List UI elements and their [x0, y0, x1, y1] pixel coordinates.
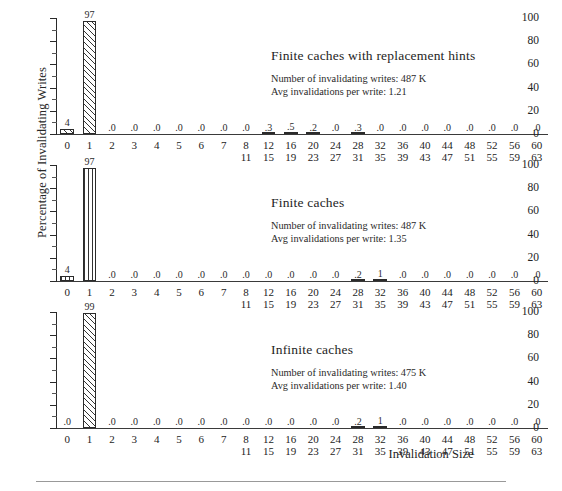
- x-tick-label-top: 6: [199, 286, 205, 298]
- y-tick-major: [50, 382, 57, 383]
- x-tick-label: 1215: [257, 139, 279, 163]
- bar-value-label: .0: [168, 123, 190, 133]
- x-tick-label-row: 0123456781112151619202324272831323536394…: [56, 286, 548, 312]
- x-tick-label-bottom: 27: [324, 151, 346, 163]
- panel-stats: Number of invalidating writes: 487 K Avg…: [271, 220, 426, 245]
- bar-value-label: .0: [459, 270, 481, 280]
- bar-value-label: 4: [56, 265, 78, 275]
- bar-value-label: .0: [459, 417, 481, 427]
- x-tick-label-bottom: 47: [436, 151, 458, 163]
- bar-value-label: .2: [347, 417, 369, 427]
- y-tick-major: [50, 188, 57, 189]
- y-tick-label: 40: [505, 376, 539, 388]
- x-tick-label-bottom: 11: [235, 151, 257, 163]
- y-tick-minor: [52, 370, 57, 371]
- panel-title: Infinite caches: [271, 342, 426, 358]
- y-tick-major: [50, 41, 57, 42]
- x-tick-label-top: 12: [263, 139, 274, 151]
- x-axis-title: Invalidation Size: [0, 447, 562, 462]
- x-tick-label-top: 16: [285, 433, 296, 445]
- bar-value-label: .0: [235, 417, 257, 427]
- x-tick-label-top: 12: [263, 286, 274, 298]
- x-tick-label-bottom: 51: [459, 298, 481, 310]
- bar-value-label: .0: [123, 417, 145, 427]
- x-tick-label-top: 4: [154, 286, 160, 298]
- y-tick-major: [50, 165, 57, 166]
- x-tick-label: 7: [213, 286, 235, 298]
- x-tick-label-top: 2: [109, 139, 115, 151]
- y-tick-minor: [52, 177, 57, 178]
- bar-value-label: .0: [213, 270, 235, 280]
- y-tick-minor: [52, 393, 57, 394]
- x-tick-label-top: 24: [330, 433, 341, 445]
- panel-infinite-caches: 020406080100.099.0.0.0.0.0.0.0.0.0.0.0.2…: [56, 312, 548, 445]
- x-tick-label-top: 28: [352, 139, 363, 151]
- x-tick-label: 1619: [280, 139, 302, 163]
- y-tick-label: 60: [505, 205, 539, 217]
- x-tick-label-top: 60: [531, 286, 542, 298]
- bar-value-label: .0: [414, 123, 436, 133]
- y-tick-major: [50, 235, 57, 236]
- bar: [373, 279, 387, 281]
- bar-value-label: .0: [503, 123, 525, 133]
- bar-value-label: .0: [391, 417, 413, 427]
- x-tick-label-bottom: 43: [414, 298, 436, 310]
- panel-finite-caches-with-replacement-hints: 020406080100497.0.0.0.0.0.0.0.3.5.2.0.3.…: [56, 18, 548, 151]
- bottom-rule: [36, 481, 506, 482]
- y-tick-major: [50, 281, 57, 282]
- bar-value-label: .0: [235, 270, 257, 280]
- x-tick-label-top: 44: [442, 433, 453, 445]
- x-tick-label-bottom: 55: [481, 298, 503, 310]
- x-tick-label: 1: [78, 286, 100, 298]
- y-tick-label: 60: [505, 58, 539, 70]
- bar-value-label: 99: [78, 302, 100, 312]
- x-tick-label: 2023: [302, 286, 324, 310]
- x-tick-label-top: 52: [487, 286, 498, 298]
- x-tick-label-top: 52: [487, 139, 498, 151]
- x-axis-title-text: Invalidation Size: [388, 447, 473, 461]
- x-tick-label-top: 36: [397, 286, 408, 298]
- x-tick-label-top: 12: [263, 433, 274, 445]
- x-tick-label-bottom: 47: [436, 298, 458, 310]
- bar-value-label: .0: [190, 123, 212, 133]
- x-tick-label-bottom: 11: [235, 298, 257, 310]
- bar: [60, 129, 74, 134]
- x-tick-label-top: 24: [330, 286, 341, 298]
- bar-value-label: .0: [123, 123, 145, 133]
- x-tick-label-top: 4: [154, 433, 160, 445]
- x-tick-label: 1: [78, 433, 100, 445]
- x-tick-label: 2: [101, 433, 123, 445]
- y-tick-major: [50, 358, 57, 359]
- x-tick-label: 7: [213, 433, 235, 445]
- x-tick-label-top: 1: [87, 139, 93, 151]
- x-tick-label-top: 7: [221, 139, 227, 151]
- x-tick-label: 4447: [436, 139, 458, 163]
- x-tick-label: 2831: [347, 286, 369, 310]
- bar-value-label: .0: [526, 417, 548, 427]
- x-tick-label-bottom: 43: [414, 151, 436, 163]
- x-tick-label: 0: [56, 139, 78, 151]
- bar-value-label: .0: [302, 417, 324, 427]
- y-tick-label: 20: [505, 399, 539, 411]
- x-tick-label-top: 28: [352, 433, 363, 445]
- x-tick-label: 2023: [302, 139, 324, 163]
- stat-avg: Avg invalidations per write: 1.21: [271, 86, 475, 99]
- y-tick-major: [50, 134, 57, 135]
- bar-value-label: .0: [481, 123, 503, 133]
- y-tick-label: 60: [505, 352, 539, 364]
- panel-stats: Number of invalidating writes: 487 K Avg…: [271, 73, 475, 98]
- bar-value-label: .0: [414, 270, 436, 280]
- x-tick-label-bottom: 15: [257, 151, 279, 163]
- x-tick-label-top: 32: [375, 286, 386, 298]
- y-tick-minor: [52, 324, 57, 325]
- x-tick-label: 3: [123, 286, 145, 298]
- x-tick-label-top: 44: [442, 139, 453, 151]
- x-tick-label: 811: [235, 139, 257, 163]
- bar-value-label: .0: [56, 417, 78, 427]
- y-tick-label: 40: [505, 229, 539, 241]
- bar-value-label: .0: [257, 417, 279, 427]
- x-tick-label: 3639: [391, 286, 413, 310]
- x-tick-label-top: 28: [352, 286, 363, 298]
- bar-value-label: .0: [414, 417, 436, 427]
- x-tick-label-bottom: 35: [369, 298, 391, 310]
